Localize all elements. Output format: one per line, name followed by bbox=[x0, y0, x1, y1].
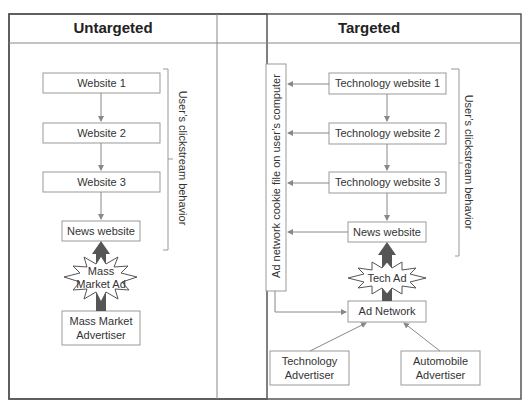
mass-ad-line2: Market Ad bbox=[62, 278, 140, 291]
targeted-title: Targeted bbox=[217, 19, 521, 36]
website-2-label: Website 2 bbox=[43, 123, 160, 143]
untargeted-title: Untargeted bbox=[9, 19, 217, 36]
mass-ad-line1: Mass bbox=[62, 265, 140, 278]
tech-advertiser-line2: Advertiser bbox=[270, 368, 349, 382]
cookie-file-label: Ad network cookie file on user’s compute… bbox=[270, 66, 282, 286]
auto-advertiser-line1: Automobile bbox=[401, 354, 480, 368]
mass-advertiser-line2: Advertiser bbox=[62, 328, 140, 342]
tech-ad-label: Tech Ad bbox=[358, 271, 416, 285]
news-website-untargeted-label: News website bbox=[62, 221, 140, 241]
news-website-targeted-label: News website bbox=[348, 222, 426, 242]
targeted-clickstream-label: User’s clickstream behavior bbox=[463, 87, 475, 237]
website-1-label: Website 1 bbox=[43, 73, 160, 93]
tech-website-2-label: Technology website 2 bbox=[329, 123, 446, 144]
mass-advertiser-line1: Mass Market bbox=[62, 314, 140, 328]
diagram-canvas bbox=[0, 0, 532, 415]
tech-website-1-label: Technology website 1 bbox=[329, 73, 446, 94]
auto-advertiser-line2: Advertiser bbox=[401, 368, 480, 382]
tech-website-3-label: Technology website 3 bbox=[329, 172, 446, 193]
ad-network-label: Ad Network bbox=[348, 301, 426, 322]
tech-advertiser-line1: Technology bbox=[270, 354, 349, 368]
untargeted-clickstream-label: User’s clickstream behavior bbox=[177, 83, 189, 233]
website-3-label: Website 3 bbox=[43, 172, 160, 192]
